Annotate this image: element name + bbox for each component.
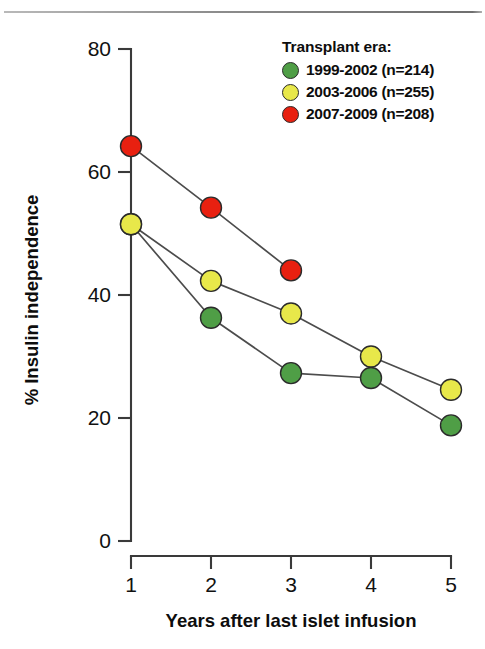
chart-figure: 806040200 12345 % Insulin independenceYe…	[0, 0, 485, 649]
legend-item: 2003-2006 (n=255)	[282, 83, 482, 101]
legend-item-label: 2007-2009 (n=208)	[306, 105, 434, 123]
x-tick-labels: 12345	[125, 573, 457, 596]
y-axis-title: % Insulin independence	[21, 195, 42, 406]
circle-marker-icon	[282, 62, 299, 79]
series-markers	[121, 136, 462, 436]
data-point-marker	[201, 270, 222, 291]
legend: Transplant era: 1999-2002 (n=214)2003-20…	[282, 38, 482, 127]
y-tick-label: 0	[99, 529, 111, 552]
data-point-marker	[281, 260, 302, 281]
data-point-marker	[121, 214, 142, 235]
data-point-marker	[121, 136, 142, 157]
x-axis	[131, 556, 451, 569]
x-tick-label: 4	[365, 573, 377, 596]
legend-item-label: 1999-2002 (n=214)	[306, 61, 434, 79]
circle-marker-icon	[282, 106, 299, 123]
x-axis-title: Years after last islet infusion	[166, 610, 417, 631]
axis-titles: % Insulin independenceYears after last i…	[21, 195, 416, 631]
y-tick-label: 40	[88, 283, 111, 306]
x-tick-label: 5	[445, 573, 457, 596]
data-point-marker	[441, 415, 462, 436]
data-point-marker	[201, 197, 222, 218]
legend-items: 1999-2002 (n=214)2003-2006 (n=255)2007-2…	[282, 61, 482, 123]
legend-item: 1999-2002 (n=214)	[282, 61, 482, 79]
data-point-marker	[201, 307, 222, 328]
circle-marker-icon	[282, 84, 299, 101]
legend-item-label: 2003-2006 (n=255)	[306, 83, 434, 101]
legend-item: 2007-2009 (n=208)	[282, 105, 482, 123]
data-point-marker	[441, 379, 462, 400]
x-tick-label: 3	[285, 573, 297, 596]
data-point-marker	[361, 368, 382, 389]
x-tick-label: 2	[205, 573, 217, 596]
x-tick-label: 1	[125, 573, 137, 596]
series-line	[131, 224, 451, 425]
y-axis	[118, 49, 131, 541]
legend-title: Transplant era:	[282, 38, 482, 56]
y-tick-labels: 806040200	[88, 37, 111, 552]
y-tick-label: 20	[88, 406, 111, 429]
data-point-marker	[281, 363, 302, 384]
data-point-marker	[361, 346, 382, 367]
data-point-marker	[281, 303, 302, 324]
y-tick-label: 60	[88, 160, 111, 183]
y-tick-label: 80	[88, 37, 111, 60]
